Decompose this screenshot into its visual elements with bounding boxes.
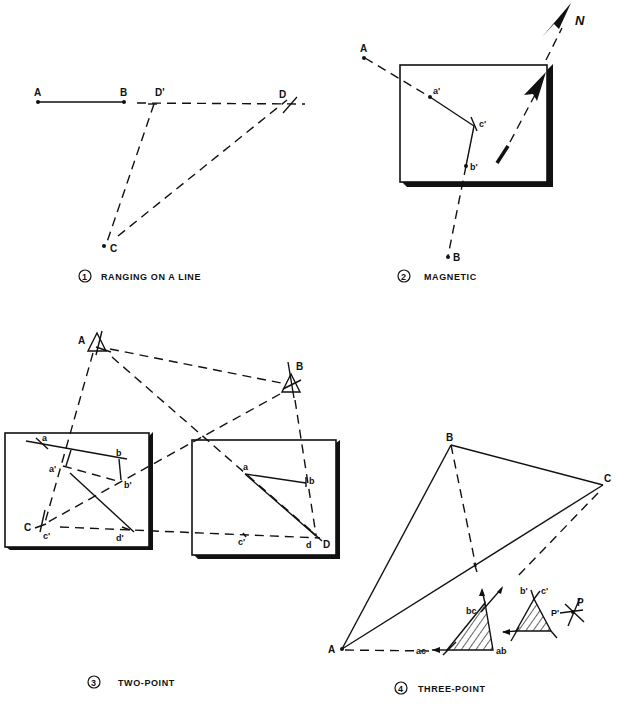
label-b-prime: b' bbox=[520, 586, 528, 596]
label-ac: ac bbox=[416, 646, 426, 656]
label-b: B bbox=[120, 87, 127, 98]
line-c-dprime bbox=[106, 104, 154, 245]
label-left-c-prime: c' bbox=[43, 531, 50, 541]
label-d: D bbox=[279, 89, 286, 100]
label-a: A bbox=[78, 335, 85, 346]
point-a-prime bbox=[428, 95, 432, 99]
caption-magnetic: MAGNETIC bbox=[424, 272, 477, 282]
right-plane-table-board bbox=[192, 440, 336, 555]
panel-magnetic: A a' c' b' B N 2 MAGNETIC bbox=[360, 3, 585, 282]
point-a bbox=[362, 56, 366, 60]
label-b: B bbox=[453, 252, 460, 263]
arrow-ac-icon bbox=[432, 647, 440, 653]
label-right-d: d bbox=[306, 540, 312, 550]
label-a: A bbox=[360, 43, 367, 54]
arrow-b-icon bbox=[479, 588, 485, 596]
label-left-b: b bbox=[116, 448, 122, 458]
caption-number: 4 bbox=[398, 684, 403, 694]
label-p: P bbox=[577, 597, 584, 608]
panel-three-point: A B C ac ab bc b' c' P' P 4 THREE-POINT bbox=[328, 432, 611, 694]
label-right-c-prime: c' bbox=[238, 537, 245, 547]
label-a-prime: a' bbox=[433, 86, 440, 96]
label-p-prime: P' bbox=[551, 608, 559, 618]
line-b-c bbox=[451, 445, 603, 485]
point-a bbox=[36, 100, 40, 104]
caption-two-point: TWO-POINT bbox=[118, 678, 175, 688]
point-a bbox=[340, 647, 344, 651]
line-a-b bbox=[342, 445, 451, 649]
caption-number: 1 bbox=[82, 272, 87, 282]
label-bc: bc bbox=[466, 606, 477, 616]
label-d-prime: D' bbox=[155, 87, 165, 98]
label-ab: ab bbox=[496, 646, 507, 656]
line-c-extension bbox=[516, 493, 598, 578]
label-c-prime: c' bbox=[541, 586, 548, 596]
label-a: A bbox=[328, 644, 335, 655]
panel-two-point: A B C D a b a' b' c' d' a b c' d 3 TWO-P… bbox=[5, 331, 340, 688]
label-right-b: b bbox=[309, 476, 315, 486]
point-b bbox=[446, 255, 450, 259]
error-triangle-2 bbox=[516, 599, 551, 631]
label-left-a-prime: a' bbox=[49, 464, 56, 474]
label-left-b-prime: b' bbox=[124, 480, 132, 490]
diagram-canvas: A B D' D C 1 RANGING ON A LINE A a' c' b… bbox=[0, 0, 621, 705]
caption-three-point: THREE-POINT bbox=[418, 684, 486, 694]
north-arrow-icon bbox=[542, 3, 571, 37]
point-b-prime bbox=[464, 164, 468, 168]
panel-ranging-on-a-line: A B D' D C 1 RANGING ON A LINE bbox=[34, 87, 305, 282]
caption-number: 3 bbox=[91, 678, 96, 688]
line-c-d bbox=[118, 100, 287, 236]
label-c: C bbox=[604, 473, 611, 484]
label-c-prime: c' bbox=[479, 119, 486, 129]
label-b: B bbox=[296, 361, 303, 372]
point-c bbox=[102, 244, 106, 248]
caption-ranging: RANGING ON A LINE bbox=[101, 272, 201, 282]
label-d: D bbox=[323, 539, 330, 550]
label-left-d-prime: d' bbox=[116, 533, 124, 543]
point-b bbox=[122, 100, 126, 104]
line-extension bbox=[137, 103, 305, 104]
label-north: N bbox=[575, 13, 585, 28]
label-a: A bbox=[34, 87, 41, 98]
caption-number: 2 bbox=[401, 272, 406, 282]
line-b-perpendicular bbox=[451, 445, 476, 567]
label-b-prime: b' bbox=[470, 162, 478, 172]
label-b: B bbox=[446, 432, 453, 443]
label-c: C bbox=[24, 522, 31, 533]
label-c: C bbox=[110, 243, 117, 254]
